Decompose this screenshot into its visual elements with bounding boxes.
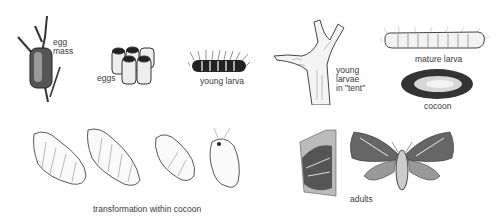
tent-label: young larvae in "tent" xyxy=(336,66,365,93)
cocoon-illustration xyxy=(400,68,475,100)
eggs-label: eggs xyxy=(97,74,115,83)
pupae-illustration xyxy=(28,128,248,198)
eggs-illustration xyxy=(108,46,163,86)
egg-mass-label: egg mass xyxy=(53,38,73,56)
adult-resting-illustration xyxy=(296,128,338,198)
life-cycle-diagram: egg mass eggs young larva xyxy=(0,0,499,218)
transformation-label: transformation within cocoon xyxy=(93,205,201,214)
mature-larva-illustration xyxy=(380,26,490,56)
young-larva-illustration xyxy=(188,50,250,76)
mature-larva-label: mature larva xyxy=(415,55,462,64)
egg-mass-illustration xyxy=(10,12,65,102)
young-larva-label: young larva xyxy=(200,77,244,86)
adult-spread-illustration xyxy=(348,130,456,192)
cocoon-label: cocoon xyxy=(424,102,451,111)
adults-label: adults xyxy=(350,195,373,204)
